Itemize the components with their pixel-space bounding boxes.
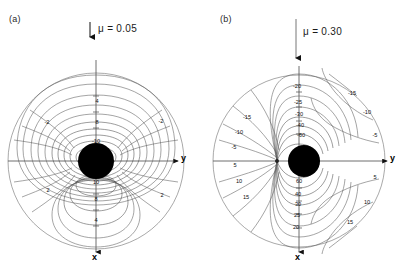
contour-label: -15	[243, 114, 251, 120]
panel-b-y-axis-label: y	[390, 153, 395, 163]
panel-a-x-axis-label: x	[92, 252, 97, 262]
contour-label: -25	[294, 99, 302, 105]
panel-b-plot: -20 -25 -30 -40 -60 60 40 30 25 20 -15 -…	[207, 0, 413, 272]
panel-b-x-axis-label: x	[295, 252, 300, 262]
panel-a-svg: 4 8 -10 10 8 4 -2 -2 2 2	[0, 0, 207, 272]
contour-label: -10	[92, 138, 100, 144]
panel-a: (a) μ = 0.05	[0, 0, 207, 272]
panel-a-body-disk	[78, 143, 114, 179]
panel-b-body-disk	[288, 145, 320, 177]
panel-b-contours-lower	[270, 161, 358, 248]
contour-label: 4	[95, 98, 98, 104]
contour-label: -20	[293, 83, 301, 89]
contour-label: -15	[348, 90, 356, 96]
contour-label: 8	[94, 196, 97, 202]
contour-label: -2	[159, 118, 164, 124]
contour-label: 15	[347, 219, 353, 225]
contour-label: -10	[235, 129, 243, 135]
contour-label: 30	[295, 201, 301, 207]
panel-a-y-axis-label: y	[181, 153, 186, 163]
panel-b-contours-upper	[270, 74, 358, 161]
contour-label: 8	[95, 119, 98, 125]
contour-label: -5	[232, 144, 237, 150]
contour-label: -60	[297, 132, 305, 138]
contour-label: -30	[295, 111, 303, 117]
contour-label: 15	[243, 194, 249, 200]
contour-label: 5	[233, 162, 236, 168]
contour-label: 2	[46, 187, 49, 193]
contour-label: -2	[45, 119, 50, 125]
contour-label: 20	[293, 224, 299, 230]
contour-label: 40	[295, 191, 301, 197]
contour-label: 5	[373, 174, 376, 180]
contour-label: 60	[296, 178, 302, 184]
contour-label: 25	[294, 212, 300, 218]
figure-container: (a) μ = 0.05	[0, 0, 413, 272]
contour-label: 4	[94, 217, 97, 223]
contour-label: 10	[236, 178, 242, 184]
contour-label: -10	[363, 109, 371, 115]
panel-b: (b) μ = 0.30	[207, 0, 413, 272]
panel-a-plot: 4 8 -10 10 8 4 -2 -2 2 2	[0, 0, 207, 272]
contour-label: -5	[373, 132, 378, 138]
contour-label: 2	[160, 192, 163, 198]
panel-b-svg: -20 -25 -30 -40 -60 60 40 30 25 20 -15 -…	[207, 0, 413, 272]
contour-label: 10	[364, 199, 370, 205]
contour-label: -40	[296, 122, 304, 128]
contour-label: 10	[93, 179, 99, 185]
panel-b-stagnation-point	[275, 159, 279, 163]
